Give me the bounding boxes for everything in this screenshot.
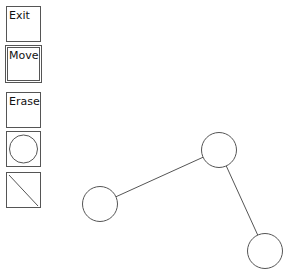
graph-edge[interactable] <box>116 157 203 197</box>
graph-nodes <box>83 133 283 269</box>
graph-edge[interactable] <box>226 166 257 235</box>
graph-node[interactable] <box>83 187 118 222</box>
graph-edges <box>116 157 258 235</box>
drawing-canvas[interactable] <box>0 0 284 271</box>
graph-node[interactable] <box>202 133 237 168</box>
graph-node[interactable] <box>248 234 283 269</box>
